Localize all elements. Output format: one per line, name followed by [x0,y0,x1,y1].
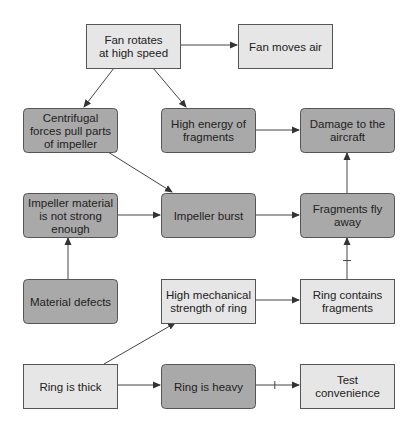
node-label-line: of impeller [44,138,97,150]
node-material-defects: Material defects [24,280,118,324]
edge-fan-rotates-to-centrifugal [84,68,114,107]
node-label-line: Impeller burst [174,210,244,222]
node-high-mech-strength: High mechanicalstrength of ring [162,280,256,324]
node-test-convenience: Testconvenience [301,365,395,409]
node-label-line: fragments [183,131,234,143]
nodes-layer: Fan rotatesat high speedFan moves airCen… [24,25,395,409]
node-label-line: strength of ring [170,302,247,314]
cause-effect-diagram: Fan rotatesat high speedFan moves airCen… [0,0,415,428]
node-centrifugal: Centrifugalforces pull partsof impeller [24,109,118,153]
node-damage: Damage to theaircraft [301,109,395,153]
node-label-line: fragments [322,302,373,314]
node-label-line: away [334,216,361,228]
node-label-line: Material defects [30,296,111,308]
node-ring-heavy: Ring is heavy [162,365,256,409]
node-label-line: Fan moves air [249,41,322,53]
node-label-line: Ring is thick [40,381,102,393]
node-label-line: enough [51,223,89,235]
node-fan-moves-air: Fan moves air [239,25,333,69]
node-fan-rotates: Fan rotatesat high speed [87,25,181,69]
node-label-line: High energy of [171,118,247,130]
node-label-line: convenience [315,387,380,399]
node-impeller-burst: Impeller burst [162,194,256,238]
node-fragments-fly: Fragments flyaway [301,194,395,238]
node-label-line: Test [337,374,359,386]
node-label-line: aircraft [330,131,366,143]
node-label-line: Fan rotates [104,34,162,46]
edge-centrifugal-to-impeller-burst [108,152,172,192]
node-ring-thick: Ring is thick [24,365,118,409]
node-impeller-material: Impeller materialis not strongenough [24,194,118,238]
edge-fan-rotates-to-high-energy [153,68,186,107]
node-label-line: Damage to the [310,118,385,130]
node-label-line: is not strong [39,210,102,222]
node-label-line: Ring contains [313,289,383,301]
node-label-line: Centrifugal [43,112,99,124]
node-ring-contains: Ring containsfragments [301,280,395,324]
node-label-line: at high speed [99,47,168,59]
edge-ring-thick-to-high-mech-strength [104,323,175,364]
node-label-line: High mechanical [166,289,251,301]
node-label-line: Impeller material [28,197,113,209]
node-high-energy: High energy offragments [162,109,256,153]
node-label-line: forces pull parts [30,125,111,137]
node-label-line: Ring is heavy [174,381,243,393]
node-label-line: Fragments fly [313,203,383,215]
